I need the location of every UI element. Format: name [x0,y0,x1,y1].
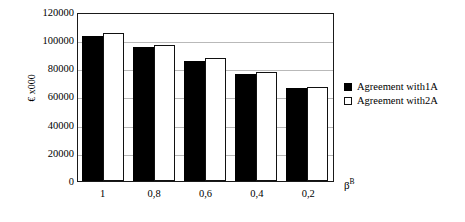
x-tick-label-2: 0,8 [131,188,177,208]
bar-group-5 [285,14,331,181]
legend-label-series1: Agreement with1A [357,81,438,93]
bar-series1-cat5[interactable] [286,88,307,181]
bar-series2-cat1[interactable] [103,33,124,181]
legend-item-series1[interactable]: Agreement with1A [344,80,462,94]
bar-series1-cat1[interactable] [82,36,103,181]
bar-groups [78,14,333,181]
bar-series1-cat2[interactable] [133,47,154,181]
bar-series2-cat2[interactable] [154,45,175,181]
bar-group-3 [183,14,229,181]
legend-swatch-filled-icon [344,83,352,91]
plot-area [77,13,334,182]
bar-group-4 [234,14,280,181]
x-axis-title: βB [344,176,355,191]
bar-series1-cat3[interactable] [184,61,205,181]
y-tick-label-80000: 80000 [28,64,74,74]
bar-series2-cat5[interactable] [307,87,328,181]
legend: Agreement with1A Agreement with2A [344,80,462,108]
bar-series2-cat3[interactable] [205,58,226,181]
x-tick-label-3: 0,6 [182,188,228,208]
y-tick-label-100000: 100000 [28,36,74,46]
y-axis-tick-labels: 120000 100000 80000 60000 40000 20000 0 [22,0,74,222]
x-tick-label-1: 1 [80,188,126,208]
bar-group-2 [132,14,178,181]
x-tick-label-4: 0,4 [234,188,280,208]
x-axis-tick-labels: 1 0,8 0,6 0,4 0,2 [77,188,334,208]
legend-swatch-outlined-icon [344,97,352,105]
bar-series2-cat4[interactable] [256,72,277,181]
y-tick-label-120000: 120000 [28,8,74,18]
x-tick-label-5: 0,2 [285,188,331,208]
chart-screenshot: € x000 120000 100000 80000 60000 40000 2… [0,0,465,222]
legend-label-series2: Agreement with2A [357,95,438,107]
bar-chart-figure: € x000 120000 100000 80000 60000 40000 2… [0,0,465,222]
bar-group-1 [81,14,127,181]
y-tick-label-20000: 20000 [28,149,74,159]
legend-item-series2[interactable]: Agreement with2A [344,94,462,108]
bar-series1-cat4[interactable] [235,74,256,181]
y-tick-label-60000: 60000 [28,92,74,102]
y-tick-label-40000: 40000 [28,121,74,131]
x-axis-title-superscript: B [350,177,355,186]
y-tick-label-0: 0 [28,177,74,187]
